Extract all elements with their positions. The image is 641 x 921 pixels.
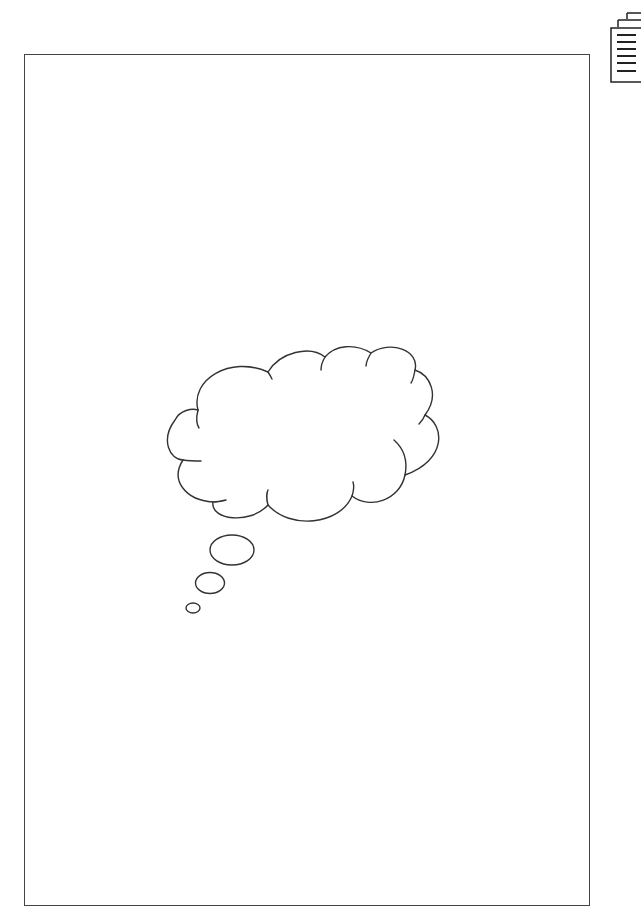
thought-bubble-large <box>210 535 254 565</box>
cloud-shape <box>167 347 438 521</box>
thought-bubble-medium <box>196 573 225 594</box>
thought-bubble-small <box>186 603 200 613</box>
thought-bubble-illustration <box>0 0 641 921</box>
